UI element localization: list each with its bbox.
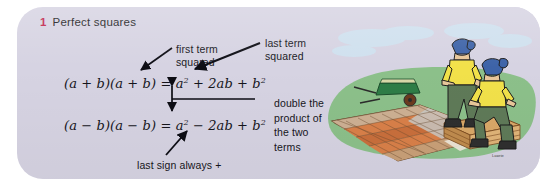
- arrow-first-term-squared: [141, 48, 172, 70]
- section-number: 1: [40, 16, 47, 28]
- arrow-last-sign: [166, 131, 187, 155]
- callout-first-term-squared: first term squared: [176, 43, 218, 69]
- section-title: Perfect squares: [53, 16, 137, 28]
- callout-last-term-squared: last term squared: [265, 37, 306, 63]
- callout-last-sign-always-plus: last sign always +: [137, 159, 221, 172]
- page-title: 1Perfect squares: [40, 16, 136, 28]
- callout-double-the-product: double the product of the two terms: [274, 96, 324, 154]
- equation-expand-sum: (a + b)(a + b) = a2 + 2ab + b2: [64, 76, 266, 91]
- bricklayers-patio-illustration: Lawrie: [324, 7, 540, 179]
- equation-expand-difference: (a − b)(a − b) = a2 − 2ab + b2: [64, 118, 266, 133]
- perfect-squares-panel: 1Perfect squares (a + b)(a + b) = a2 + 2…: [17, 7, 540, 179]
- artist-signature: Lawrie: [492, 153, 505, 158]
